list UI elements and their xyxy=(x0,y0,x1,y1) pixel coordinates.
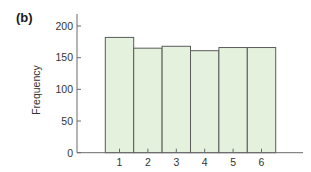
bar-6 xyxy=(247,48,275,153)
x-tick-label: 4 xyxy=(202,156,208,168)
histogram-plot: 050100150200 123456 xyxy=(0,0,311,172)
bar-1 xyxy=(105,37,133,152)
x-tick-label: 1 xyxy=(117,156,123,168)
y-tick-label: 50 xyxy=(61,115,73,127)
bar-4 xyxy=(191,51,219,153)
y-tick-label: 200 xyxy=(55,20,73,32)
bar-2 xyxy=(134,48,162,153)
y-tick-label: 0 xyxy=(67,147,73,159)
x-tick-label: 6 xyxy=(259,156,265,168)
bars xyxy=(105,37,275,152)
y-tick-label: 150 xyxy=(55,51,73,63)
x-tick-label: 3 xyxy=(173,156,179,168)
y-axis: 050100150200 xyxy=(55,14,81,159)
bar-3 xyxy=(162,46,190,152)
x-tick-label: 5 xyxy=(230,156,236,168)
x-tick-label: 2 xyxy=(145,156,151,168)
y-tick-label: 100 xyxy=(55,83,73,95)
bar-5 xyxy=(219,48,247,153)
